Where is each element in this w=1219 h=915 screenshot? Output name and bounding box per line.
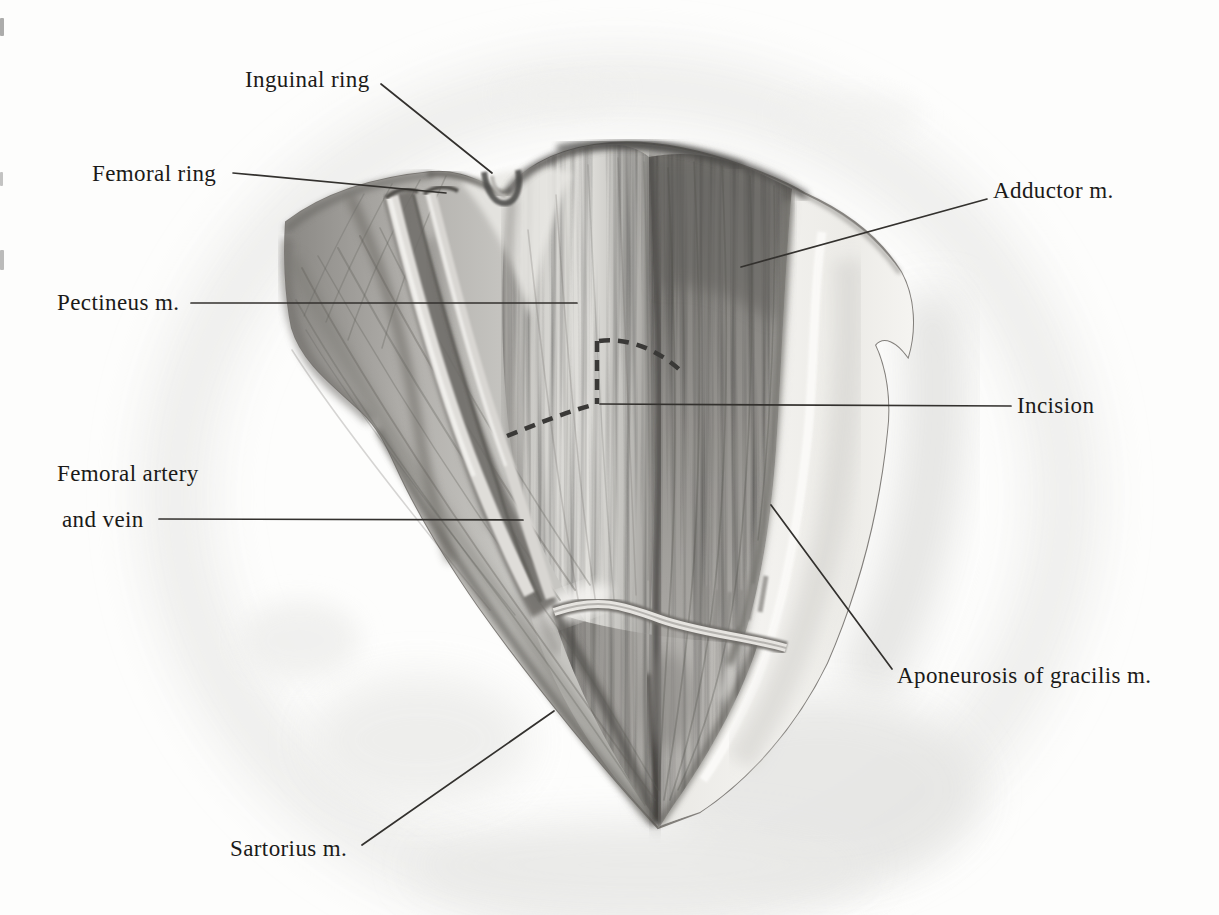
label-femoral-artery: Femoral artery — [57, 461, 199, 486]
bottom-left-wash — [310, 675, 530, 805]
label-and-vein: and vein — [62, 507, 144, 532]
anatomical-illustration: Inguinal ring Femoral ring Pectineus m. … — [0, 0, 1219, 915]
label-pectineus: Pectineus m. — [57, 290, 179, 315]
label-adductor: Adductor m. — [993, 178, 1114, 203]
label-aponeurosis-gracilis: Aponeurosis of gracilis m. — [897, 663, 1151, 688]
page-edge-artifacts — [0, 18, 4, 270]
label-sartorius: Sartorius m. — [230, 836, 347, 861]
femoral-vessels-leader — [159, 519, 523, 520]
label-inguinal-ring: Inguinal ring — [245, 67, 370, 92]
label-incision: Incision — [1017, 393, 1094, 418]
label-femoral-ring: Femoral ring — [92, 161, 216, 186]
left-wash — [240, 600, 360, 680]
bottom-wash — [410, 820, 870, 910]
v-crosshatch-shade — [642, 652, 694, 748]
page: Inguinal ring Femoral ring Pectineus m. … — [0, 0, 1219, 915]
top-center-smudge — [500, 77, 620, 113]
top-right-smudge — [780, 93, 920, 137]
